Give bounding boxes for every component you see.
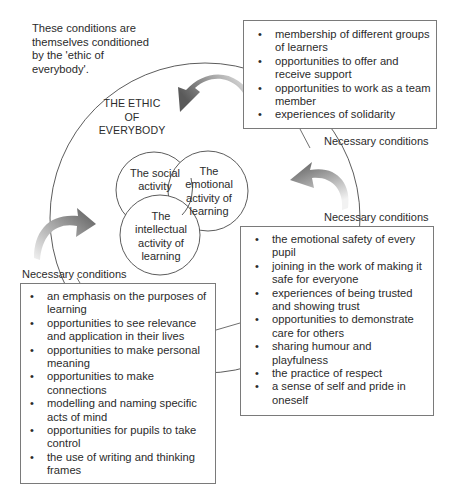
list-item: •a sense of self and pride in oneself	[250, 380, 429, 407]
list-item: •joining in the work of making it safe f…	[250, 260, 429, 287]
ethic-title-line: EVERYBODY	[88, 124, 176, 138]
bullet-icon: •	[30, 317, 34, 330]
intro-note: These conditions are themselves conditio…	[32, 22, 152, 76]
label-intellectual-activity: The intellectual activity of learning	[126, 210, 196, 264]
label-social-activity: The social activity	[124, 167, 186, 194]
list-item: •experiences of solidarity	[253, 108, 432, 121]
bullet-icon: •	[30, 397, 34, 410]
list-item: •opportunities to work as a team member	[253, 82, 432, 109]
connector-top-box	[300, 129, 310, 148]
label-necessary-conditions-top: Necessary conditions	[324, 135, 429, 148]
list-item: •an emphasis on the purposes of learning	[25, 290, 211, 317]
box-intellectual-conditions: •an emphasis on the purposes of learning…	[20, 283, 216, 484]
bullet-icon: •	[255, 287, 259, 300]
bullet-icon: •	[255, 233, 259, 246]
list-item: •the practice of respect	[250, 367, 429, 380]
box-social-conditions: •membership of different groups of learn…	[243, 20, 437, 129]
bullet-icon: •	[30, 424, 34, 437]
label-necessary-conditions-right: Necessary conditions	[324, 211, 429, 224]
bullet-icon: •	[258, 55, 262, 68]
bullet-icon: •	[30, 344, 34, 357]
bullet-icon: •	[255, 340, 259, 353]
list-item: •membership of different groups of learn…	[253, 28, 432, 55]
connector-right-box	[216, 323, 240, 330]
ethic-title-line: OF	[88, 111, 176, 125]
list-item: •the emotional safety of every pupil	[250, 233, 429, 260]
box-emotional-conditions: •the emotional safety of every pupil •jo…	[240, 226, 434, 416]
list-item: •opportunities for pupils to take contro…	[25, 424, 211, 451]
bullet-icon: •	[258, 82, 262, 95]
list-item: •sharing humour and playfulness	[250, 340, 429, 367]
list-item: •opportunities to demonstrate care for o…	[250, 313, 429, 340]
bullet-icon: •	[30, 290, 34, 303]
bullet-icon: •	[30, 451, 34, 464]
ethic-title-line: THE ETHIC	[88, 97, 176, 111]
bullet-icon: •	[255, 260, 259, 273]
list-item: •opportunities to offer and receive supp…	[253, 55, 432, 82]
ethic-title: THE ETHIC OF EVERYBODY	[88, 97, 176, 138]
list-item: •modelling and naming specific acts of m…	[25, 397, 211, 424]
bullet-icon: •	[258, 28, 262, 41]
list-item: •opportunities to make personal meaning	[25, 344, 211, 371]
bullet-icon: •	[255, 367, 259, 380]
list-item: •opportunities to see relevance and appl…	[25, 317, 211, 344]
list-item: •experiences of being trusted and showin…	[250, 287, 429, 314]
list-item: •the use of writing and thinking frames	[25, 451, 211, 478]
bullet-icon: •	[255, 380, 259, 393]
list-item: •opportunities to make connections	[25, 370, 211, 397]
curved-arrow-left-icon	[34, 208, 96, 260]
bullet-icon: •	[258, 108, 262, 121]
bullet-icon: •	[30, 370, 34, 383]
curved-arrow-right-icon	[290, 162, 349, 210]
ethic-of-everybody-diagram: These conditions are themselves conditio…	[0, 0, 452, 498]
label-necessary-conditions-left: Necessary conditions	[22, 268, 127, 281]
bullet-icon: •	[255, 313, 259, 326]
